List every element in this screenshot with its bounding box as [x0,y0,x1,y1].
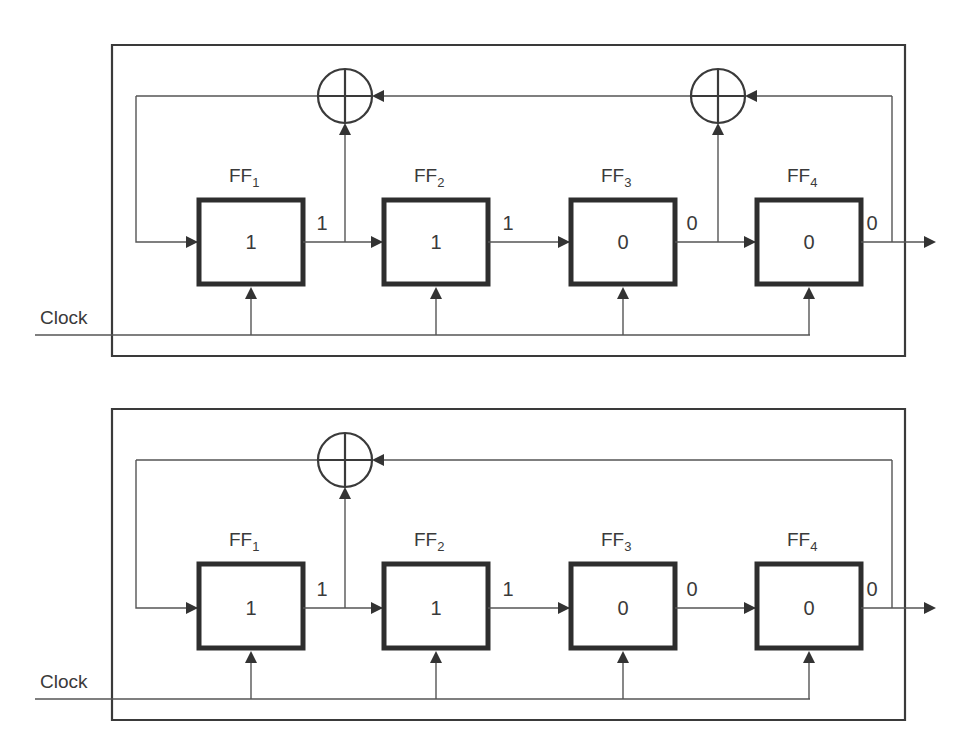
arrow-up-icon [617,651,629,663]
flip-flop-label: FF4 [787,529,817,554]
flip-flop-state: 0 [803,231,814,253]
flip-flop-1: FF111 [199,529,328,648]
flip-flop-2: FF211 [384,529,514,648]
output-bit-label: 1 [502,212,513,234]
arrow-right-icon [924,602,936,614]
arrow-left-icon [745,90,757,102]
arrow-right-icon [186,602,198,614]
arrow-right-icon [558,236,570,248]
xor-gate [691,69,745,123]
output-bit-label: 0 [686,212,697,234]
arrow-up-icon [430,287,442,299]
output-bit-label: 1 [316,212,327,234]
output-bit-label: 0 [686,578,697,600]
flip-flop-2: FF211 [384,165,514,284]
arrow-up-icon [339,123,351,135]
lfsr-top: ClockFF111FF211FF300FF400 [35,45,936,356]
arrow-right-icon [186,236,198,248]
arrow-right-icon [371,236,383,248]
flip-flop-state: 1 [245,231,256,253]
output-bit-label: 0 [866,578,877,600]
arrow-right-icon [744,236,756,248]
arrow-right-icon [371,602,383,614]
lfsr-diagram-canvas: ClockFF111FF211FF300FF400ClockFF111FF211… [0,0,978,744]
arrow-up-icon [339,487,351,499]
flip-flop-state: 0 [617,597,628,619]
flip-flop-1: FF111 [199,165,328,284]
flip-flop-label: FF2 [414,165,444,190]
flip-flop-4: FF400 [757,165,878,284]
flip-flop-3: FF300 [571,529,698,648]
output-bit-label: 0 [866,212,877,234]
arrow-up-icon [430,651,442,663]
lfsr-bottom: ClockFF111FF211FF300FF400 [35,409,936,720]
arrow-up-icon [617,287,629,299]
flip-flop-label: FF3 [601,529,631,554]
arrow-up-icon [245,651,257,663]
flip-flop-4: FF400 [757,529,878,648]
flip-flop-label: FF1 [229,529,259,554]
feedback-return-wire [136,460,197,608]
flip-flop-state: 1 [245,597,256,619]
flip-flop-state: 0 [803,597,814,619]
arrow-up-icon [803,651,815,663]
arrow-left-icon [372,90,384,102]
feedback-return-wire [136,96,197,242]
arrow-right-icon [558,602,570,614]
flip-flop-state: 1 [430,231,441,253]
arrow-up-icon [712,123,724,135]
flip-flop-label: FF4 [787,165,817,190]
output-bit-label: 1 [316,578,327,600]
flip-flop-state: 1 [430,597,441,619]
flip-flop-label: FF3 [601,165,631,190]
arrow-up-icon [245,287,257,299]
arrow-up-icon [803,287,815,299]
arrow-right-icon [924,236,936,248]
clock-label: Clock [40,671,88,692]
xor-gate [318,69,372,123]
flip-flop-label: FF2 [414,529,444,554]
xor-gate [318,433,372,487]
arrow-right-icon [744,602,756,614]
arrow-left-icon [372,454,384,466]
flip-flop-state: 0 [617,231,628,253]
flip-flop-label: FF1 [229,165,259,190]
clock-label: Clock [40,307,88,328]
flip-flop-3: FF300 [571,165,698,284]
output-bit-label: 1 [502,578,513,600]
